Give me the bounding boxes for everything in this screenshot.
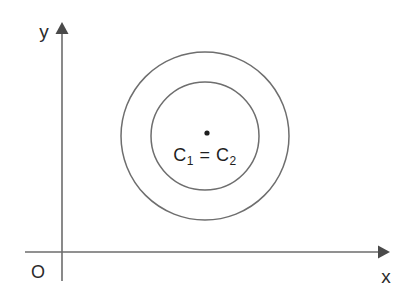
origin-label: O: [31, 262, 45, 282]
c2-letter: C: [216, 145, 230, 165]
center-equation-label: C1 = C2: [173, 145, 236, 168]
inner-circle: [151, 82, 259, 190]
common-center-dot: [204, 130, 209, 135]
coordinate-diagram-canvas: y x O C1 = C2: [0, 0, 412, 300]
c1-letter: C: [173, 145, 187, 165]
y-axis-arrow-icon: [56, 22, 69, 34]
outer-circle: [121, 52, 289, 220]
geometry-figure: y x O C1 = C2: [0, 0, 412, 300]
x-axis-label: x: [381, 266, 391, 287]
x-axis-arrow-icon: [378, 246, 390, 259]
c2-subscript: 2: [230, 154, 237, 168]
c1-subscript: 1: [187, 154, 194, 168]
equals-sign: =: [194, 145, 216, 165]
y-axis-label: y: [39, 21, 49, 42]
